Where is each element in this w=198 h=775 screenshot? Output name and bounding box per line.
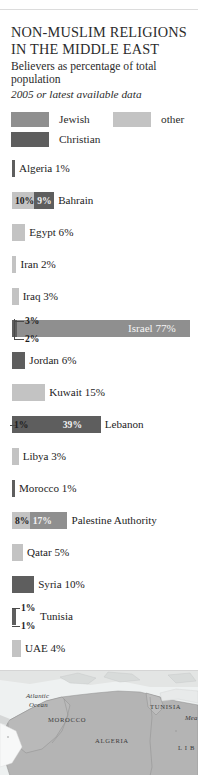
bar-segment-christian <box>12 160 15 177</box>
bar-egypt <box>12 224 25 241</box>
chart-panel: NON-MUSLIM RELIGIONS IN THE MIDDLE EAST … <box>0 10 198 670</box>
bar-segment-christian <box>12 352 25 369</box>
map-label: Mea <box>185 714 198 721</box>
bar-syria <box>12 576 34 593</box>
callout-value: 1% <box>21 603 35 613</box>
bar-palestine-authority: 8%17% <box>12 512 68 529</box>
legend: Jewish other Christian <box>0 110 198 154</box>
map-label: ALGERIA <box>95 737 129 744</box>
bar-label-israel: Israel 77% <box>128 320 176 337</box>
callout-value: 2% <box>25 334 39 344</box>
bar-label-tunisia: Tunisia <box>40 608 73 625</box>
callout-leader-line <box>14 321 24 322</box>
legend-label-other: other <box>161 112 184 127</box>
segment-value-label: 10% <box>15 192 34 209</box>
legend-swatch-other <box>113 112 151 127</box>
bar-row: UAE 4% <box>0 640 198 672</box>
bar-rows: Algeria 1%10%9%BahrainEgypt 6%Iran 2%Ira… <box>0 160 198 672</box>
callout-leader-line <box>12 608 20 609</box>
bar-row: 8%17%Palestine Authority <box>0 512 198 544</box>
callout-value: 1% <box>21 621 35 631</box>
bar-row: Iran 2% <box>0 256 198 288</box>
segment-value-label: 17% <box>33 512 52 529</box>
bar-label-uae: UAE 4% <box>25 640 65 657</box>
legend-swatch-christian <box>11 132 49 147</box>
bar-label-bahrain: Bahrain <box>58 192 93 209</box>
bar-segment-other <box>12 640 21 657</box>
bar-segment-christian <box>12 576 34 593</box>
legend-label-christian: Christian <box>59 132 100 147</box>
callout-value: 1% <box>14 420 28 430</box>
bar-label-egypt: Egypt 6% <box>29 224 73 241</box>
bar-jordan <box>12 352 25 369</box>
legend-swatch-jewish <box>11 112 49 127</box>
bar-row: Tunisia1%1% <box>0 608 198 640</box>
bar-morocco <box>12 480 15 497</box>
bar-iran <box>12 256 16 273</box>
bar-label-jordan: Jordan 6% <box>29 352 76 369</box>
callout-leader-line <box>14 339 24 340</box>
bar-row: Morocco 1% <box>0 480 198 512</box>
map-label: MOROCCO <box>48 716 86 723</box>
bar-libya <box>12 448 19 465</box>
bar-segment-other <box>12 448 19 465</box>
page-subtitle: Believers as percentage of total populat… <box>11 60 193 87</box>
reference-map: AtlanticOceanMOROCCOALGERIATUNISIAMeaL I… <box>0 670 198 775</box>
bar-tunisia <box>12 608 16 625</box>
bar-label-iran: Iran 2% <box>20 256 55 273</box>
bar-row: Qatar 5% <box>0 544 198 576</box>
bar-row: Libya 3% <box>0 448 198 480</box>
bar-segment-other <box>12 224 25 241</box>
legend-label-jewish: Jewish <box>59 112 90 127</box>
bar-row: Kuwait 15% <box>0 384 198 416</box>
callout-value: 3% <box>25 316 39 326</box>
bar-label-kuwait: Kuwait 15% <box>49 384 105 401</box>
bar-label-syria: Syria 10% <box>38 576 85 593</box>
map-label: Atlantic <box>26 692 49 699</box>
map-label: TUNISIA <box>150 703 181 710</box>
bar-segment-christian <box>12 608 16 625</box>
map-label: L I B <box>178 744 195 751</box>
bar-algeria <box>12 160 15 177</box>
bar-label-morocco: Morocco 1% <box>19 480 77 497</box>
bar-row: Egypt 6% <box>0 224 198 256</box>
callout-stem <box>14 319 15 339</box>
bar-segment-other <box>12 288 19 305</box>
bar-label-qatar: Qatar 5% <box>27 544 69 561</box>
bar-label-lebanon: Lebanon <box>105 416 144 433</box>
bar-kuwait <box>12 384 45 401</box>
bar-row: 39%Lebanon1% <box>0 416 198 448</box>
page-dateline: 2005 or latest available data <box>11 88 193 101</box>
bar-uae <box>12 640 21 657</box>
bar-row: Jordan 6% <box>0 352 198 384</box>
bar-segment-christian <box>12 480 15 497</box>
bar-label-palestine-authority: Palestine Authority <box>72 512 157 529</box>
callout-leader-line <box>12 626 20 627</box>
bar-qatar <box>12 544 23 561</box>
segment-value-label: 8% <box>15 512 29 529</box>
bar-iraq <box>12 288 19 305</box>
map-graphic <box>0 671 198 775</box>
bar-label-iraq: Iraq 3% <box>23 288 58 305</box>
bar-bahrain: 10%9% <box>12 192 54 209</box>
bar-label-libya: Libya 3% <box>23 448 66 465</box>
bar-label-algeria: Algeria 1% <box>19 160 70 177</box>
segment-value-label: 9% <box>37 192 51 209</box>
bar-segment-other <box>12 256 16 273</box>
page-title: NON-MUSLIM RELIGIONS IN THE MIDDLE EAST <box>11 24 193 57</box>
segment-value-label: 39% <box>63 416 82 433</box>
bar-segment-other <box>12 544 23 561</box>
bar-row: Algeria 1% <box>0 160 198 192</box>
map-label: Ocean <box>29 701 48 708</box>
bar-row: 10%9%Bahrain <box>0 192 198 224</box>
infographic-panel: NON-MUSLIM RELIGIONS IN THE MIDDLE EAST … <box>0 0 198 775</box>
bar-segment-other <box>12 384 45 401</box>
bar-row: Israel 77%3%2% <box>0 320 198 352</box>
